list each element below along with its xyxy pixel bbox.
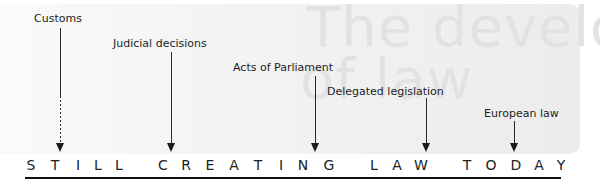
arrow-delegated-legislation: [422, 98, 431, 152]
arrow-delegated-legislation-shaft: [426, 98, 427, 144]
arrow-acts-of-parliament-shaft: [315, 76, 316, 144]
label-customs: Customs: [34, 12, 82, 25]
tagline-letter: L: [91, 156, 105, 174]
tagline-letter: A: [532, 156, 546, 174]
tagline-letter: Y: [554, 156, 568, 174]
arrow-european-law: [510, 121, 519, 152]
arrow-head-icon: [422, 143, 430, 152]
tagline-letter: G: [322, 156, 336, 174]
tagline-letter: L: [112, 156, 126, 174]
arrow-head-icon: [510, 143, 518, 152]
arrow-judicial-decisions: [167, 52, 176, 152]
label-european-law: European law: [484, 107, 559, 120]
tagline-letter: D: [509, 156, 523, 174]
tagline-letter: W: [414, 156, 428, 174]
tagline-letter: L: [367, 156, 381, 174]
label-delegated-legislation: Delegated legislation: [327, 85, 444, 98]
arrow-head-icon: [167, 143, 175, 152]
watermark-line-1: The development: [300, 2, 600, 52]
tagline-letter: O: [484, 156, 498, 174]
arrow-head-icon: [56, 143, 64, 152]
tagline-letter: A: [390, 156, 404, 174]
tagline-letter: A: [227, 156, 241, 174]
arrow-customs-dashed-shaft: [60, 96, 61, 144]
tagline-letter: T: [460, 156, 474, 174]
tagline-letter: R: [179, 156, 193, 174]
arrow-judicial-decisions-shaft: [171, 52, 172, 144]
tagline-letter: C: [156, 156, 170, 174]
tagline-letter: I: [274, 156, 288, 174]
tagline-letter: N: [296, 156, 310, 174]
arrow-customs: [56, 28, 65, 152]
arrow-acts-of-parliament: [311, 76, 320, 152]
tagline-letter: S: [24, 156, 38, 174]
label-acts-of-parliament: Acts of Parliament: [233, 61, 333, 74]
tagline-letter: I: [71, 156, 85, 174]
tagline: S T I L L C R E A T I N G L A W T O D A …: [24, 156, 564, 174]
tagline-letter: E: [203, 156, 217, 174]
tagline-letter: T: [251, 156, 265, 174]
arrow-european-law-shaft: [514, 121, 515, 144]
label-judicial-decisions: Judicial decisions: [113, 37, 207, 50]
tagline-letter: T: [48, 156, 62, 174]
tagline-underline: [25, 177, 561, 179]
arrow-head-icon: [311, 143, 319, 152]
arrow-customs-solid-shaft: [60, 28, 61, 96]
